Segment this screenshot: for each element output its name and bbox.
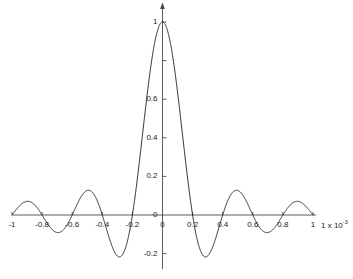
x-axis-tick-label: -0.2 (125, 221, 139, 229)
x-axis-tick-label: -1 (8, 221, 15, 229)
x-axis-scale-exponent-value: -3 (343, 219, 348, 225)
y-axis-tick-label: 0.4 (0, 134, 158, 142)
y-axis-arrowhead (160, 2, 165, 9)
y-axis-tick-label: 0.6 (0, 95, 158, 103)
y-axis-ticks (163, 22, 167, 254)
x-axis-tick-label: -0.4 (95, 221, 109, 229)
y-axis-tick-label: 0 (0, 211, 158, 219)
chart-figure: -1-0.8-0.6-0.4-0.200.20.40.60.81 10.60.4… (0, 0, 353, 279)
x-axis-scale-exponent: 1 x 10-3 (321, 220, 348, 230)
y-axis-tick-label: -0.2 (0, 250, 158, 258)
x-axis-tick-label: 0.2 (187, 221, 198, 229)
y-axis-tick-label: 1 (0, 18, 158, 26)
x-axis-tick-label: 1 (311, 221, 315, 229)
x-axis-scale-mantissa: 1 x 10 (321, 221, 343, 230)
x-axis-tick-label: -0.6 (65, 221, 79, 229)
x-axis-tick-label: 0.4 (217, 221, 228, 229)
y-axis-tick-label: 0.2 (0, 172, 158, 180)
x-axis-tick-label: 0.8 (277, 221, 288, 229)
x-axis-tick-label: -0.8 (35, 221, 49, 229)
x-axis-tick-label: 0.6 (247, 221, 258, 229)
x-axis-tick-label: 0 (160, 221, 164, 229)
